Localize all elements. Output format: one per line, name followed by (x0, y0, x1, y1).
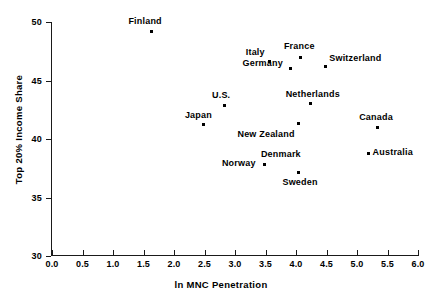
x-tick-label: 4.0 (281, 259, 311, 269)
data-point (309, 102, 312, 105)
y-tick-mark (46, 81, 51, 82)
data-point-label: Germany (243, 58, 283, 68)
data-point-label: Switzerland (329, 53, 381, 63)
data-point (367, 152, 370, 155)
x-tick-label: 0.5 (68, 259, 98, 269)
y-tick-mark (46, 139, 51, 140)
scatter-chart: 3035404550 0.00.51.01.52.02.53.03.54.04.… (0, 0, 442, 303)
data-point (297, 171, 300, 174)
data-point (376, 126, 379, 129)
x-tick-label: 4.5 (312, 259, 342, 269)
data-point (223, 104, 226, 107)
x-tick-mark (418, 250, 419, 255)
x-tick-label: 6.0 (403, 259, 433, 269)
x-tick-label: 3.0 (220, 259, 250, 269)
y-tick-mark (46, 198, 51, 199)
data-point-label: Canada (359, 112, 393, 122)
data-point (299, 56, 302, 59)
x-tick-label: 1.5 (129, 259, 159, 269)
data-point-label: Netherlands (286, 89, 340, 99)
x-tick-label: 3.5 (251, 259, 281, 269)
plot-area: FinlandItalyFranceSwitzerlandGermanyU.S.… (52, 22, 418, 256)
x-axis-title: ln MNC Penetration (0, 279, 442, 290)
y-axis-title: Top 20% Income Share (13, 50, 24, 210)
data-point (202, 123, 205, 126)
data-point-label: New Zealand (237, 129, 294, 139)
data-point (297, 122, 300, 125)
data-point (324, 65, 327, 68)
x-tick-label: 1.0 (98, 259, 128, 269)
y-tick-label: 35 (22, 194, 42, 203)
y-tick-label: 50 (22, 18, 42, 27)
x-tick-label: 2.0 (159, 259, 189, 269)
data-point-label: Sweden (282, 177, 317, 187)
data-point (263, 163, 266, 166)
data-point (150, 30, 153, 33)
data-point (289, 67, 292, 70)
data-point-label: Japan (185, 110, 212, 120)
data-point-label: Italy (246, 47, 265, 57)
x-tick-label: 5.5 (373, 259, 403, 269)
data-point-label: U.S. (212, 90, 230, 100)
data-point-label: Norway (222, 158, 256, 168)
x-tick-label: 2.5 (190, 259, 220, 269)
data-point-label: Denmark (261, 149, 301, 159)
y-tick-label: 45 (22, 77, 42, 86)
x-tick-label: 0.0 (37, 259, 67, 269)
y-tick-label: 40 (22, 135, 42, 144)
data-point-label: France (284, 41, 315, 51)
x-tick-label: 5.0 (342, 259, 372, 269)
y-tick-mark (46, 256, 51, 257)
data-point-label: Australia (373, 147, 413, 157)
y-tick-mark (46, 22, 51, 23)
data-point-label: Finland (128, 16, 161, 26)
